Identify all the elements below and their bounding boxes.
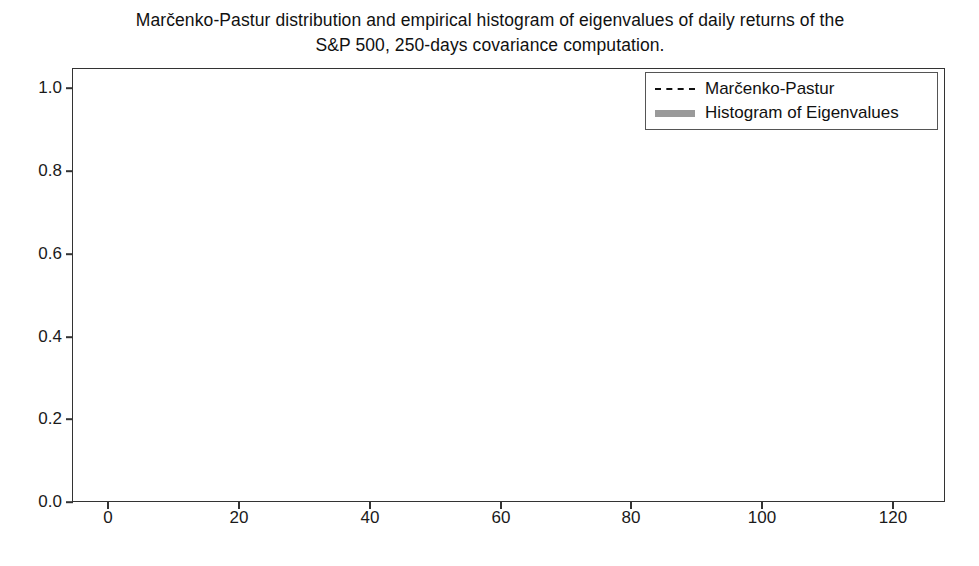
y-tick-label: 1.0 bbox=[10, 78, 62, 98]
legend-item-histogram[interactable]: Histogram of Eigenvalues bbox=[654, 101, 929, 125]
y-tick-label: 0.8 bbox=[10, 161, 62, 181]
plot-frame bbox=[72, 68, 945, 502]
y-tick-label: 0.0 bbox=[10, 492, 62, 512]
x-tick-label: 40 bbox=[330, 508, 410, 528]
chart-figure: Marčenko-Pastur distribution and empiric… bbox=[0, 0, 979, 566]
chart-legend[interactable]: Marčenko-Pastur Histogram of Eigenvalues bbox=[645, 72, 938, 130]
x-tick-label: 120 bbox=[853, 508, 933, 528]
x-tick-label: 0 bbox=[68, 508, 148, 528]
x-tick-label: 80 bbox=[591, 508, 671, 528]
chart-title: Marčenko-Pastur distribution and empiric… bbox=[50, 8, 930, 58]
legend-label: Marčenko-Pastur bbox=[705, 79, 834, 99]
y-tick-label: 0.4 bbox=[10, 327, 62, 347]
x-tick-label: 60 bbox=[461, 508, 541, 528]
legend-label: Histogram of Eigenvalues bbox=[705, 103, 899, 123]
legend-item-marcenko-pastur[interactable]: Marčenko-Pastur bbox=[654, 77, 929, 101]
y-tick-label: 0.2 bbox=[10, 409, 62, 429]
y-tick-label: 0.6 bbox=[10, 244, 62, 264]
x-tick-label: 100 bbox=[722, 508, 802, 528]
dashed-line-icon bbox=[654, 82, 696, 96]
x-tick-label: 20 bbox=[199, 508, 279, 528]
color-swatch-icon bbox=[654, 106, 696, 120]
y-axis-ticks: 0.0 0.2 0.4 0.6 0.8 1.0 bbox=[0, 0, 62, 566]
